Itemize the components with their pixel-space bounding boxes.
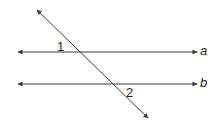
angle-1-label: 1	[57, 40, 64, 53]
line-b-label: b	[200, 76, 207, 89]
line-a-label: a	[200, 44, 207, 57]
angle-2-label: 2	[126, 86, 133, 99]
parallel-lines-diagram	[0, 0, 219, 130]
transversal-line	[37, 10, 148, 118]
